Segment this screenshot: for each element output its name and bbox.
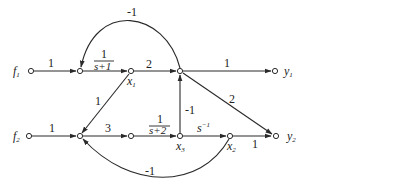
gain-a-to-x1-den: s+1 (94, 60, 111, 72)
node-x2 (227, 133, 232, 138)
node-d (128, 133, 133, 138)
label-f1: f1 (13, 64, 20, 79)
gain-x2-to-y2: 1 (252, 137, 258, 151)
gain-x1-to-c: 1 (95, 94, 101, 108)
gain-a-to-x1-num: 1 (101, 47, 107, 61)
gain-b-to-y1: 1 (224, 56, 230, 70)
gain-b-to-y2: 2 (229, 92, 235, 106)
label-f2: f2 (13, 129, 20, 144)
node-f1 (28, 68, 33, 73)
gain-x3-to-x2: s−1 (197, 121, 210, 135)
label-x1: x1 (126, 74, 136, 89)
node-c (77, 133, 82, 138)
gain-c-to-d: 3 (105, 121, 111, 135)
signal-flow-graph: f1 f2 y1 y2 x1 x3 x2 1 1 s+1 2 1 2 -1 1 … (0, 0, 401, 192)
edge-feedback-bottom (83, 139, 229, 177)
gain-feedback-top: -1 (127, 5, 137, 19)
gain-d-to-x3-den: s+2 (149, 124, 167, 136)
gain-f2-to-c: 1 (49, 121, 55, 135)
label-x3: x3 (175, 139, 185, 154)
node-a (77, 68, 82, 73)
node-x1 (128, 68, 133, 73)
node-y1 (272, 68, 277, 73)
gain-f1-to-a: 1 (48, 56, 54, 70)
node-b (177, 68, 182, 73)
node-y2 (273, 133, 278, 138)
label-y2: y2 (286, 129, 296, 144)
gain-feedback-bottom: -1 (145, 164, 155, 178)
node-f2 (26, 133, 31, 138)
label-x2: x2 (226, 139, 236, 154)
label-y1: y1 (283, 64, 293, 79)
node-x3 (177, 133, 182, 138)
gain-x3-to-b: -1 (185, 103, 195, 117)
gain-x1-to-b: 2 (146, 57, 152, 71)
